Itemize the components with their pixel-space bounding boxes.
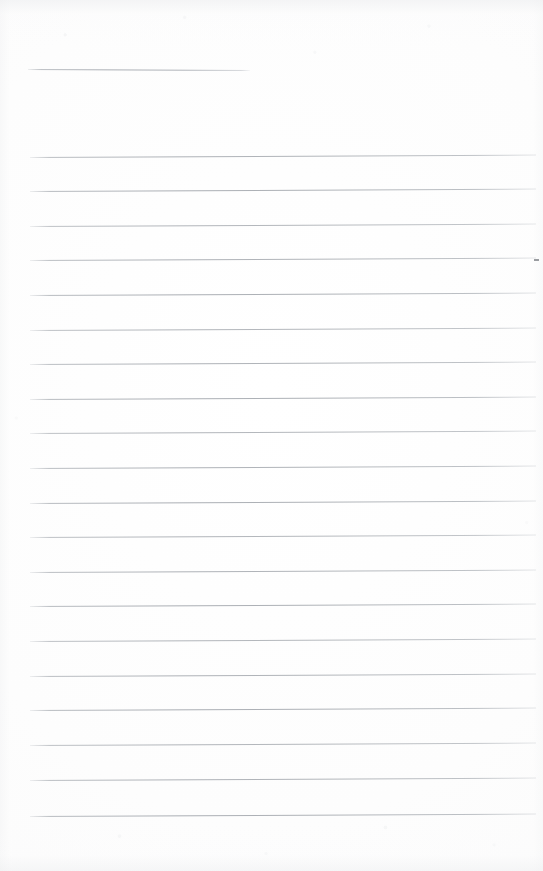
ruled-line [30, 639, 536, 642]
ruled-line [30, 189, 536, 192]
ruled-line [30, 778, 536, 781]
ruled-line [30, 708, 536, 711]
ruled-line [30, 258, 536, 261]
ruled-line-end-mark [534, 259, 539, 261]
notepad-page [0, 0, 543, 871]
ruled-line [30, 743, 536, 746]
ruled-lines-area [0, 0, 543, 871]
ruled-line [30, 674, 536, 677]
ruled-line [30, 466, 536, 469]
ruled-line [30, 293, 536, 296]
ruled-line [30, 570, 536, 573]
ruled-line [30, 362, 536, 365]
ruled-line [30, 535, 536, 538]
ruled-line [30, 501, 536, 504]
ruled-line [30, 604, 536, 607]
ruled-line [30, 224, 536, 227]
ruled-line [30, 328, 536, 331]
ruled-line [30, 814, 536, 817]
ruled-line [30, 431, 536, 434]
ruled-line [30, 397, 536, 400]
ruled-line [30, 155, 536, 158]
